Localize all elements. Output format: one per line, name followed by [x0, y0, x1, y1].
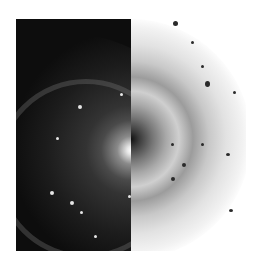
- star-knot: [226, 153, 230, 156]
- star-knot: [78, 105, 82, 109]
- star-knot: [120, 93, 123, 96]
- star-knot: [50, 191, 54, 195]
- star-knot: [171, 177, 175, 181]
- star-knot: [191, 41, 194, 44]
- star-knot: [94, 235, 97, 238]
- star-knot: [171, 143, 174, 146]
- star-knot: [233, 91, 236, 94]
- star-knot: [80, 211, 83, 214]
- star-knot: [70, 201, 74, 205]
- galaxy-inverted-disk: [131, 19, 246, 251]
- star-knot: [173, 21, 178, 26]
- galaxy-split-image: [0, 0, 259, 267]
- star-knot: [205, 81, 210, 87]
- spiral-arm: [16, 79, 131, 251]
- galaxy-positive-half: [16, 19, 131, 251]
- star-knot: [229, 209, 233, 212]
- star-knot: [182, 163, 186, 167]
- star-knot: [201, 65, 204, 68]
- star-knot: [56, 137, 59, 140]
- galaxy-negative-half: [131, 19, 246, 251]
- star-knot: [201, 143, 204, 146]
